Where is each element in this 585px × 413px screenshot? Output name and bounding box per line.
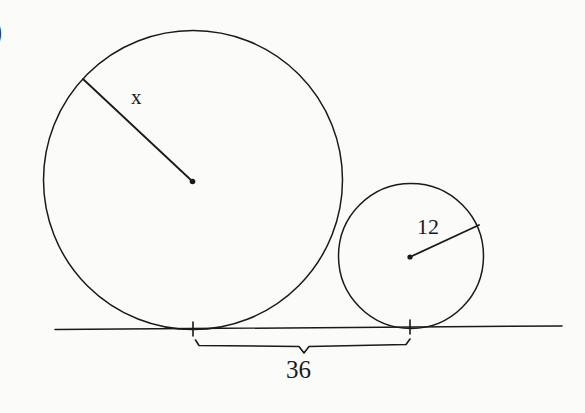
brace-measure-label: 36 xyxy=(286,357,311,382)
small-radius-label: 12 xyxy=(417,216,439,238)
large-circle-center-dot xyxy=(190,179,196,185)
figure-canvas xyxy=(0,0,585,413)
large-radius-label: x xyxy=(131,87,142,108)
tangent-baseline xyxy=(55,326,562,330)
small-circle-center-dot xyxy=(407,254,412,259)
geometry-figure: ) x 12 36 xyxy=(0,0,585,413)
measurement-brace xyxy=(196,339,411,353)
